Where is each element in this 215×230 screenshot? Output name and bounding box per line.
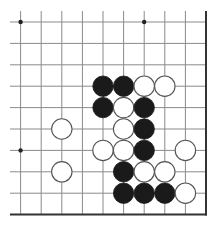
star-point	[18, 20, 22, 24]
black-stone	[93, 97, 113, 117]
go-board	[0, 0, 215, 230]
white-stone	[134, 162, 154, 182]
white-stone	[113, 119, 133, 139]
star-point	[18, 148, 22, 152]
white-stone	[155, 162, 175, 182]
white-stone	[93, 140, 113, 160]
white-stone	[175, 140, 195, 160]
black-stone	[134, 119, 154, 139]
white-stone	[155, 76, 175, 96]
white-stone	[113, 140, 133, 160]
star-point	[142, 20, 146, 24]
white-stone	[113, 97, 133, 117]
black-stone	[134, 183, 154, 203]
black-stone	[134, 97, 154, 117]
white-stone	[52, 119, 72, 139]
white-stone	[134, 76, 154, 96]
black-stone	[113, 76, 133, 96]
stones-layer	[52, 76, 196, 203]
white-stone	[52, 162, 72, 182]
black-stone	[113, 162, 133, 182]
black-stone	[155, 183, 175, 203]
black-stone	[113, 183, 133, 203]
black-stone	[134, 140, 154, 160]
black-stone	[93, 76, 113, 96]
white-stone	[175, 183, 195, 203]
